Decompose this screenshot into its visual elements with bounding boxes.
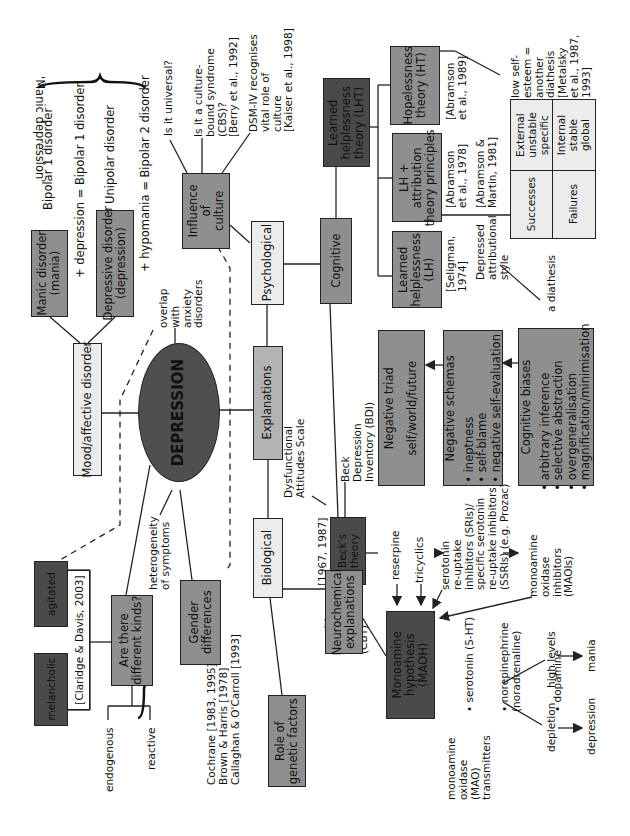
psychological-label: Psychological — [261, 224, 274, 301]
dsm-iv-text: DSM-IV recognises vital role of culture … — [248, 28, 295, 132]
ssri-text: serotonin re-uptake inhibitors (SRIs)/ s… — [440, 484, 511, 590]
cognitive-label: Cognitive — [329, 234, 342, 288]
low-self-esteem-text: low self- esteem = another diathesis [Me… — [510, 35, 592, 98]
high-levels-text: high levels — [546, 631, 558, 688]
monoamine-hypothesis-node: Monoamine hypothesis (MAOH) — [386, 611, 435, 719]
dysfunctional-attitudes-text: Dysfunctional Attitudes Scale — [283, 419, 307, 498]
tricyclics-text: tricyclics — [414, 537, 426, 583]
a-diathesis-text: a diathesis — [546, 255, 558, 312]
melancholic-label: melancholic — [45, 658, 57, 721]
negative-triad-sub: self/world/future — [407, 361, 420, 455]
explanations-label: Explanations — [261, 366, 274, 440]
overlap-anxiety-text: overlap with anxiety disorders — [158, 279, 205, 328]
plus-depression-text: + depression = Bipolar 1 disorder — [74, 83, 87, 278]
mood-label: Mood/affective disorder — [81, 342, 94, 478]
depressive-label: Depressive disorder (depression) — [102, 206, 128, 321]
lh-attribution-node: LH + attribution theory principles — [392, 133, 442, 222]
ht-citation: [Abramson et al., 1989] — [445, 56, 469, 120]
lh-citation: [Seligman, 1974] — [445, 236, 469, 292]
schema-item: ineptness — [462, 416, 476, 472]
unipolar-text: Unipolar disorder — [104, 105, 117, 204]
cognitive-biases-node: Cognitive biases • arbitrary inference •… — [518, 328, 594, 486]
lh-attribution-label: LH + attribution theory principles — [397, 129, 437, 226]
hopelessness-theory-node: Hopelessness theory (HT) — [390, 46, 440, 125]
transmitter-norepinephrine: norepinephrine (noradrenaline) — [498, 622, 522, 712]
mood-affective-disorder-node: Mood/affective disorder — [73, 343, 102, 476]
genetic-label: Role of genetic factors — [274, 698, 300, 784]
lh-attr-citation: [Abramson et al., 1978] — [445, 144, 469, 208]
agitated-label: agitated — [45, 572, 57, 616]
bias-item: magnification/minimisation — [578, 323, 592, 480]
successes-label: Successes — [525, 177, 537, 231]
transmitter-serotonin: serotonin (5-HT) — [463, 617, 475, 703]
plus-hypomania-text: + hypomania = Bipolar 2 disorder — [139, 75, 152, 272]
culture-bound-syndrome-text: Is it a culture- bound syndrome (CBS)? [… — [193, 37, 240, 137]
bdi-text: Beck Depression Inventory (BDI) — [340, 402, 375, 482]
melancholic-node: melancholic — [34, 653, 68, 726]
manic-disorder-node: Manic disorder (mania) — [31, 230, 68, 317]
schema-item: negative self-evaluation — [488, 334, 502, 472]
lht-node: Learned helplessness theory (LHT) — [323, 78, 370, 167]
is-it-universal-text: Is it universal? — [163, 60, 175, 136]
culture-label: Influence of culture — [186, 185, 226, 238]
depression-outcome-text: depression — [586, 698, 598, 755]
genetic-factors-node: Role of genetic factors — [268, 695, 306, 787]
becks-theory-label: Beck's theory — [336, 534, 360, 568]
cognitive-biases-title: Cognitive biases — [520, 323, 533, 490]
cognitive-biases-content: Cognitive biases • arbitrary inference •… — [520, 323, 592, 490]
negative-triad-node: Negative triad self/world/future — [378, 330, 425, 486]
schema-item: self-blame — [475, 412, 489, 472]
attribution-table: External unstable specific Internal stab… — [510, 99, 596, 239]
negative-schemas-content: Negative schemas • ineptness • self-blam… — [444, 334, 503, 483]
reactive-text: reactive — [146, 728, 158, 770]
lht-label: Learned helplessness theory (LHT) — [327, 86, 367, 159]
negative-triad-title: Negative triad — [383, 361, 396, 455]
cognitive-node: Cognitive — [320, 218, 352, 304]
failures-label-cell: Failures — [552, 170, 595, 238]
gender-citations: Cochrane [1983, 1995] Brown & Harris [19… — [206, 634, 241, 785]
different-kinds-node: Are there different kinds? — [111, 595, 153, 686]
neurochemical-label: Neurochemical explanations — [331, 569, 357, 655]
successes-label-cell: Successes — [511, 170, 553, 238]
failures-value-cell: Internal stable global — [552, 100, 595, 171]
biological-label: Biological — [261, 530, 274, 585]
claridge-bracket: [Claridge & Davis, 2003] — [68, 570, 90, 710]
different-kinds-label: Are there different kinds? — [119, 596, 145, 685]
successes-value: External unstable specific — [513, 112, 549, 157]
explanations-node: Explanations — [253, 346, 283, 460]
depletion-text: depletion — [546, 703, 558, 752]
influence-of-culture-node: Influence of culture — [182, 173, 230, 249]
manic-depression-label: 'Manic depression' — [33, 76, 46, 182]
heterogeneity-text: heterogeneity of symptoms — [148, 516, 172, 590]
endogenous-text: endogenous — [104, 727, 116, 792]
depression-center-node: DEPRESSION — [138, 343, 220, 482]
negative-schemas-node: Negative schemas • ineptness • self-blam… — [443, 330, 503, 486]
learned-helplessness-node: Learned helplessness (LH) — [392, 231, 442, 308]
lh-label: Learned helplessness (LH) — [397, 233, 437, 306]
mao-transmitters-label: monoamine oxidase (MAO) transmitters — [446, 735, 493, 800]
successes-value-cell: External unstable specific — [511, 100, 553, 171]
psychological-node: Psychological — [251, 221, 284, 305]
agitated-node: agitated — [34, 561, 68, 627]
negative-triad-content: Negative triad self/world/future — [383, 361, 419, 455]
neurochemical-node: Neurochemical explanations — [325, 570, 363, 654]
abramson-martin-citation: [Abramson & Martin, 1981] — [475, 137, 499, 208]
failures-value: Internal stable global — [555, 115, 591, 155]
claridge-citation: [Claridge & Davis, 2003] — [72, 575, 84, 704]
ht-label: Hopelessness theory (HT) — [402, 46, 428, 125]
failures-label: Failures — [567, 184, 579, 224]
maoi-text: monoamine oxidase inhibitors (MAOIs) — [528, 535, 575, 597]
depressive-disorder-node: Depressive disorder (depression) — [96, 210, 134, 317]
negative-schemas-title: Negative schemas — [444, 334, 457, 483]
maoh-label: Monoamine hypothesis (MAOH) — [391, 631, 431, 698]
biological-node: Biological — [253, 518, 283, 598]
mania-text: mania — [586, 639, 598, 672]
reserpine-text: reserpine — [390, 531, 402, 581]
manic-label: Manic disorder (mania) — [36, 231, 62, 316]
depressed-attributional-style: Depressed attributional style — [475, 215, 510, 280]
depression-label: DEPRESSION — [170, 359, 187, 466]
